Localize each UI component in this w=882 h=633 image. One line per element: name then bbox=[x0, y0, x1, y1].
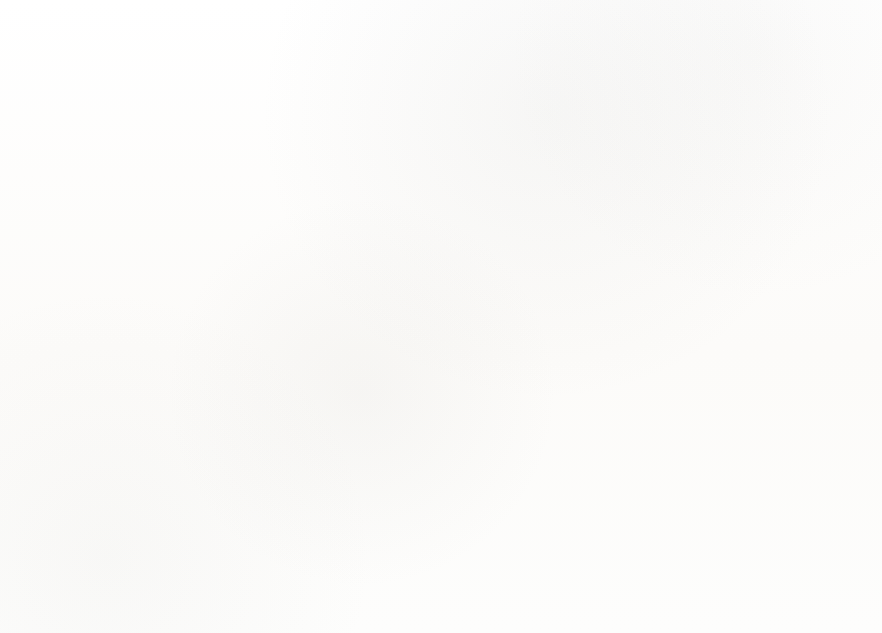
chart-svg bbox=[0, 0, 882, 633]
figure-canvas bbox=[0, 0, 882, 633]
